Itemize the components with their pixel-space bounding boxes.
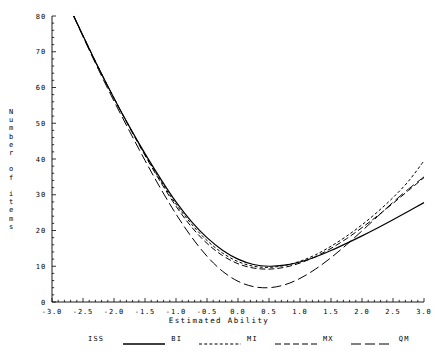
svg-text:1.0: 1.0 [292, 308, 307, 316]
legend-swatch-MI [198, 334, 242, 344]
svg-text:80: 80 [36, 13, 46, 21]
svg-text:50: 50 [36, 120, 46, 128]
chart-svg: -3.0-2.5-2.0-1.5-1.0-0.50.00.51.01.52.02… [0, 0, 438, 354]
legend-label-MI: MI [247, 335, 258, 343]
data-curves [74, 16, 424, 288]
svg-text:30: 30 [36, 191, 46, 199]
svg-text:-0.5: -0.5 [197, 308, 217, 316]
svg-text:2.0: 2.0 [354, 308, 369, 316]
svg-text:2.5: 2.5 [385, 308, 400, 316]
svg-text:3.0: 3.0 [416, 308, 431, 316]
tick-labels: -3.0-2.5-2.0-1.5-1.0-0.50.00.51.01.52.02… [36, 13, 432, 316]
svg-text:0: 0 [41, 299, 46, 307]
legend: ISS BIMIMXQM [0, 334, 438, 350]
chart-figure: -3.0-2.5-2.0-1.5-1.0-0.50.00.51.01.52.02… [0, 0, 438, 354]
legend-swatch-MX [274, 334, 318, 344]
legend-label-QM: QM [399, 335, 410, 343]
svg-text:-2.0: -2.0 [104, 308, 124, 316]
svg-text:-3.0: -3.0 [42, 308, 62, 316]
svg-text:40: 40 [36, 156, 46, 164]
svg-text:1.5: 1.5 [323, 308, 338, 316]
legend-swatch-QM [350, 334, 394, 344]
legend-label-BI: BI [171, 335, 182, 343]
curve-QM [74, 16, 424, 288]
svg-text:0.0: 0.0 [230, 308, 245, 316]
svg-text:0.5: 0.5 [261, 308, 276, 316]
legend-title: ISS [88, 335, 104, 343]
legend-row: ISS BIMIMXQM [88, 334, 426, 344]
svg-text:10: 10 [36, 263, 46, 271]
svg-text:-1.0: -1.0 [166, 308, 186, 316]
svg-text:60: 60 [36, 84, 46, 92]
svg-text:-2.5: -2.5 [73, 308, 93, 316]
plot-area: -3.0-2.5-2.0-1.5-1.0-0.50.00.51.01.52.02… [0, 0, 438, 354]
svg-text:-1.5: -1.5 [135, 308, 155, 316]
curve-BI [74, 16, 424, 266]
svg-text:70: 70 [36, 48, 46, 56]
y-axis-label: N u m b e r o f i t e m s [4, 108, 18, 231]
curve-MI [74, 16, 424, 267]
legend-item-MI: MI [198, 334, 258, 344]
legend-label-MX: MX [323, 335, 334, 343]
x-axis-label: Estimated Ability [0, 316, 438, 325]
svg-text:20: 20 [36, 227, 46, 235]
legend-item-MX: MX [274, 334, 334, 344]
legend-item-BI: BI [122, 334, 182, 344]
legend-item-QM: QM [350, 334, 410, 344]
legend-swatch-BI [122, 334, 166, 344]
